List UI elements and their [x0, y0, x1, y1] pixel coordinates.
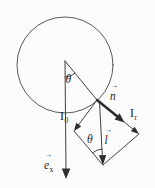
label-e-x-vector: →ex	[44, 156, 53, 172]
n-symbol: n	[110, 91, 116, 103]
background	[0, 0, 155, 188]
theta-symbol: θ	[87, 134, 93, 146]
label-I-0: I0	[60, 107, 68, 123]
l-symbol: l	[105, 135, 108, 147]
diagram-canvas	[0, 0, 155, 188]
vector-arrow-accent: →	[45, 151, 52, 159]
theta-symbol: θ	[66, 74, 72, 86]
vector-diagram: θ →n Ir I0 θ →l →ex	[0, 0, 155, 188]
label-I-r: Ir	[130, 104, 137, 120]
I-symbol: I	[60, 110, 64, 122]
vector-arrow-accent: →	[105, 126, 112, 134]
vector-arrow-accent: →	[111, 82, 118, 90]
label-theta-top: θ	[66, 70, 72, 86]
label-n-vector: →n	[110, 87, 116, 103]
I-r-subscript: r	[135, 113, 138, 122]
I-symbol: I	[130, 107, 134, 119]
I-0-subscript: 0	[65, 116, 69, 125]
e-symbol: e	[44, 160, 49, 172]
e-x-subscript: x	[50, 165, 54, 174]
label-l-vector: →l	[105, 131, 108, 147]
label-theta-bottom: θ	[87, 130, 93, 146]
